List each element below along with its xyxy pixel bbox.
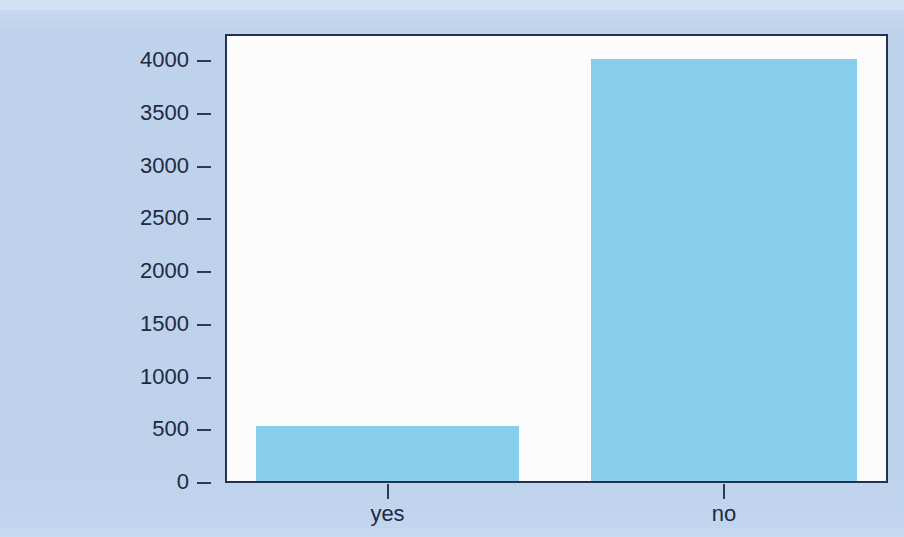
- y-axis-tick-mark: [197, 166, 211, 168]
- y-axis-tick-mark: [197, 324, 211, 326]
- y-axis-tick-label: 4000: [140, 49, 189, 71]
- y-axis-tick-label: 0: [177, 471, 189, 493]
- y-axis-tick-mark: [197, 218, 211, 220]
- scanned-page: 05001000150020002500300035004000 yesno: [0, 0, 904, 537]
- bar-no[interactable]: [591, 59, 857, 481]
- y-axis-tick-label: 500: [152, 418, 189, 440]
- bar-yes[interactable]: [256, 426, 519, 481]
- y-axis-tick-label: 1500: [140, 313, 189, 335]
- y-axis-tick-mark: [197, 429, 211, 431]
- bar-chart: 05001000150020002500300035004000 yesno: [0, 0, 904, 537]
- y-axis-tick-label: 3000: [140, 155, 189, 177]
- y-axis-tick-mark: [197, 60, 211, 62]
- x-axis-tick-no: no: [591, 483, 857, 533]
- y-axis-tick-mark: [197, 482, 211, 484]
- x-axis-tick-mark: [723, 484, 725, 499]
- y-axis-tick-label: 2500: [140, 207, 189, 229]
- y-axis-tick-mark: [197, 271, 211, 273]
- x-axis-tick-label: no: [591, 502, 857, 526]
- x-axis-tick-label: yes: [256, 502, 519, 526]
- y-axis-tick-label: 1000: [140, 366, 189, 388]
- x-axis-tick-mark: [387, 484, 389, 499]
- x-axis-tick-yes: yes: [256, 483, 519, 533]
- plot-area: [225, 34, 888, 483]
- y-axis-tick-label: 3500: [140, 102, 189, 124]
- y-axis-tick-mark: [197, 113, 211, 115]
- y-axis-tick-label: 2000: [140, 260, 189, 282]
- y-axis-tick-mark: [197, 377, 211, 379]
- plot-inner: [227, 36, 886, 481]
